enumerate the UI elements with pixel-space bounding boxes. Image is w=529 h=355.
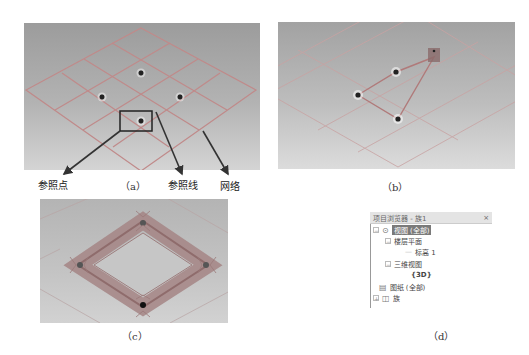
reference-line-drawing [278, 22, 515, 169]
collapse-icon[interactable]: − [373, 227, 379, 233]
tree-label: {3D} [411, 271, 432, 279]
tree-item-views[interactable]: − ⊙ 视图 (全部) [373, 225, 431, 235]
tree-item-floor-plans[interactable]: − 楼层平面 [385, 236, 422, 246]
tree-label: 视图 (全部) [392, 225, 432, 235]
caption-c: （c） [122, 328, 148, 343]
reference-point [355, 92, 360, 97]
tree-branch-line: — [405, 248, 412, 256]
reference-point [395, 116, 400, 121]
tree-label: 族 [393, 293, 400, 303]
viewport-c[interactable] [40, 199, 228, 323]
close-icon[interactable]: × [483, 214, 489, 222]
browser-tree: − ⊙ 视图 (全部) − 楼层平面 — 标高 1 − 三维视图 {3D} ▤ … [370, 224, 493, 308]
frame-drawing [40, 199, 228, 323]
views-icon: ⊙ [382, 226, 389, 235]
tree-item-3d-views[interactable]: − 三维视图 [385, 259, 422, 269]
caption-d: （d） [428, 328, 454, 343]
viewport-b[interactable] [278, 22, 515, 169]
tree-label: 三维视图 [394, 259, 422, 269]
label-reference-point: 参照点 [38, 177, 68, 192]
caption-b: （b） [382, 179, 408, 194]
families-icon: ◫ [382, 294, 390, 303]
tree-item-families[interactable]: + ◫ 族 [373, 293, 400, 303]
collapse-icon[interactable]: − [385, 238, 391, 244]
browser-title: 项目浏览器 - 族1 [373, 213, 426, 223]
label-grid: 网络 [220, 178, 240, 193]
reference-point [140, 302, 146, 308]
browser-title-bar: 项目浏览器 - 族1 × [370, 212, 492, 224]
sheets-icon: ▤ [379, 283, 387, 292]
label-reference-line: 参照线 [168, 177, 198, 192]
tree-item-level-1[interactable]: — 标高 1 [405, 247, 436, 257]
caption-a: （a） [120, 178, 146, 193]
collapse-icon[interactable]: − [385, 261, 391, 267]
tree-label: 楼层平面 [394, 236, 422, 246]
tree-label: 图纸 (全部) [390, 282, 426, 292]
tree-item-3d[interactable]: {3D} [411, 270, 432, 280]
tree-item-sheets[interactable]: ▤ 图纸 (全部) [379, 282, 425, 292]
project-browser: 项目浏览器 - 族1 × − ⊙ 视图 (全部) − 楼层平面 — 标高 1 −… [370, 212, 492, 308]
tree-label: 标高 1 [415, 247, 436, 257]
expand-icon[interactable]: + [373, 295, 379, 301]
reference-point [393, 69, 398, 74]
